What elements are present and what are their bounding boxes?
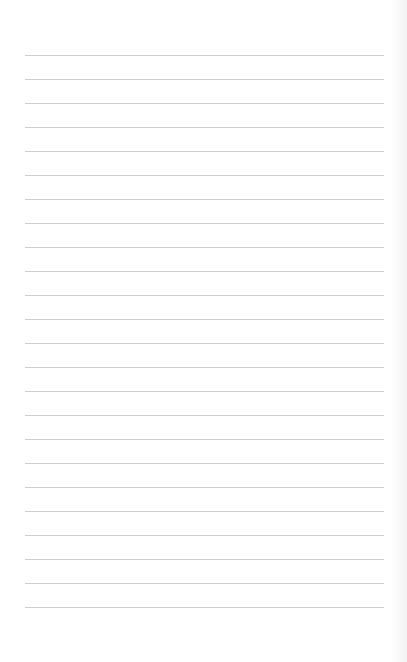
ruled-line [25,271,384,272]
lined-paper-sheet [0,0,407,662]
ruled-line [25,607,384,608]
ruled-line [25,439,384,440]
ruled-line [25,103,384,104]
ruled-line [25,223,384,224]
ruled-line [25,559,384,560]
ruled-line [25,79,384,80]
ruled-line [25,367,384,368]
ruled-line [25,535,384,536]
ruled-line [25,391,384,392]
ruled-line [25,199,384,200]
ruled-line [25,487,384,488]
ruled-line [25,583,384,584]
ruled-line [25,151,384,152]
ruled-line [25,319,384,320]
ruled-line [25,55,384,56]
ruled-line [25,295,384,296]
ruled-line [25,415,384,416]
ruled-line [25,343,384,344]
ruled-line [25,511,384,512]
ruled-line [25,463,384,464]
ruled-line [25,247,384,248]
ruled-line [25,127,384,128]
ruled-line [25,175,384,176]
